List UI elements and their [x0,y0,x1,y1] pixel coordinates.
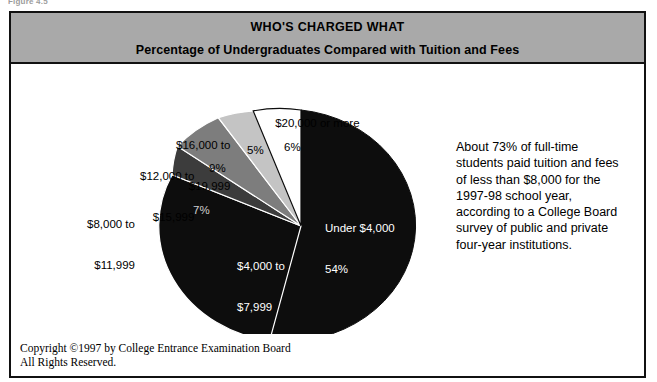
pie-label-4000-7999-line2: $7,999 [237,301,285,315]
chart-plot-area: $20,000 or more $16,000 to $19,999 $12,0… [11,64,644,376]
pie-label-12000-15999-line1: $12,000 to [140,170,194,184]
chart-subtitle: Percentage of Undergraduates Compared wi… [136,43,520,57]
pie-value-12000-15999: 9% [209,162,226,176]
figure-frame: WHO'S CHARGED WHAT Percentage of Undergr… [9,11,646,378]
copyright-footer: Copyright ©1997 by College Entrance Exam… [20,341,291,370]
pie-value-8000-11999: 7% [193,204,210,218]
pie-label-8000-11999-line1: $8,000 to [87,218,135,232]
pie-label-under-4000: Under $4,000 54% [325,195,395,304]
pie-label-8000-11999: $8,000 to $11,999 [87,191,135,300]
pie-label-4000-7999-line1: $4,000 to [237,260,285,274]
chart-title: WHO'S CHARGED WHAT [251,20,405,34]
copyright-line-2: All Rights Reserved. [20,355,291,370]
pie-label-12000-15999-line2: $15,999 [140,211,194,225]
chart-commentary-text: About 73% of full-time students paid tui… [456,139,628,253]
pie-label-20000-or-more-range: $20,000 or more [275,117,359,129]
copyright-line-1: Copyright ©1997 by College Entrance Exam… [20,341,291,356]
pie-label-8000-11999-line2: $11,999 [87,259,135,273]
pie-label-under-4000-range: Under $4,000 [325,222,395,236]
pie-label-20000-or-more: $20,000 or more [256,103,360,144]
pie-value-16000-19999: 5% [247,144,264,158]
pie-value-20000-or-more: 6% [284,141,301,155]
chart-header-band: WHO'S CHARGED WHAT Percentage of Undergr… [11,13,644,64]
pie-label-12000-15999: $12,000 to $15,999 [140,143,194,252]
figure-caption-label: Figure 4.5 [8,0,48,6]
pie-value-under-4000: 54% [325,263,395,277]
